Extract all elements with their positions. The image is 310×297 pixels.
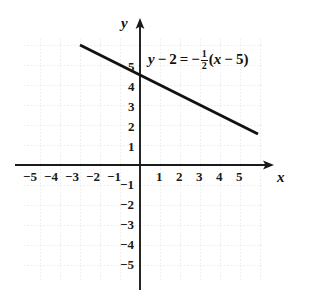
y-tick-label--5: −5 [120, 258, 134, 271]
fraction-numerator: 1 [201, 49, 208, 61]
equation-rhs-variable: x [214, 51, 222, 67]
equation-equals-sign: = [180, 51, 189, 67]
x-axis-label: x [277, 170, 285, 185]
x-tick-label--4: −4 [44, 170, 58, 183]
y-tick-label-4: 4 [128, 80, 135, 93]
equation-fraction-one-half: 12 [201, 49, 208, 71]
y-tick-label-2: 2 [128, 120, 135, 133]
equation-rhs-sign: − [191, 51, 200, 67]
equation-lhs-constant: 2 [169, 51, 177, 67]
x-tick-label--1: −1 [107, 170, 121, 183]
equation-rhs-operator: − [224, 51, 233, 67]
fraction-denominator: 2 [201, 61, 208, 72]
grid-area [23, 37, 263, 280]
y-tick-label-3: 3 [128, 100, 135, 113]
y-axis-label: y [121, 16, 128, 31]
y-tick-label--1: −1 [120, 178, 134, 191]
equation-close-paren: ) [243, 51, 248, 67]
x-tick-label-4: 4 [216, 170, 223, 183]
x-tick-label--3: −3 [65, 170, 79, 183]
graph-figure: −5 −4 −3 −2 −1 1 2 3 4 5 5 4 3 2 1 −1 −2… [0, 0, 310, 297]
x-tick-label-5: 5 [236, 170, 243, 183]
equation-annotation: y−2=−12(x−5) [148, 50, 248, 72]
y-tick-label-1: 1 [128, 140, 135, 153]
equation-lhs-variable: y [148, 51, 155, 67]
x-tick-label-3: 3 [196, 170, 203, 183]
coordinate-plane [0, 0, 310, 297]
y-tick-label--2: −2 [120, 198, 134, 211]
y-tick-label-5: 5 [128, 60, 135, 73]
x-tick-label-1: 1 [156, 170, 163, 183]
x-tick-label-2: 2 [176, 170, 183, 183]
x-tick-label--2: −2 [86, 170, 100, 183]
y-tick-label--3: −3 [120, 218, 134, 231]
y-tick-label--4: −4 [120, 238, 134, 251]
equation-lhs-operator: − [158, 51, 167, 67]
x-tick-label--5: −5 [23, 170, 37, 183]
